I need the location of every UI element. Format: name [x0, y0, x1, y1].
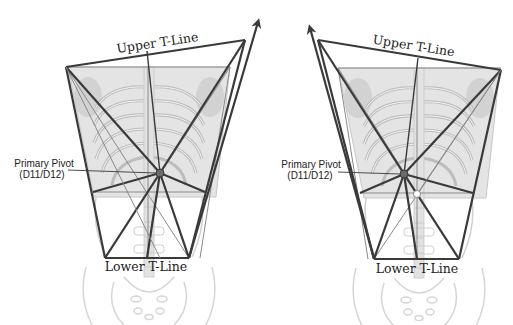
left-pivot-label-line2: (D11/D12): [19, 169, 64, 180]
left-lower-t-line-label: Lower T-Line: [105, 259, 188, 274]
left-pivot-point: [156, 169, 164, 177]
right-pivot-label-line2: (D11/D12): [287, 170, 332, 181]
right-pivot-label-line1: Primary Pivot: [281, 159, 341, 170]
right-lower-t-line-label: Lower T-Line: [376, 261, 459, 276]
t-line-diagram: Upper T-Line Lower T-Line Primary Pivot …: [0, 0, 513, 325]
right-figure: Upper T-Line Lower T-Line Primary Pivot …: [281, 28, 501, 325]
right-secondary-point: [414, 191, 421, 198]
left-upper-t-line-label: Upper T-Line: [115, 29, 199, 56]
right-pivot-point: [400, 170, 408, 178]
left-pivot-label-line1: Primary Pivot: [14, 158, 74, 169]
left-figure: Upper T-Line Lower T-Line Primary Pivot …: [0, 0, 258, 325]
